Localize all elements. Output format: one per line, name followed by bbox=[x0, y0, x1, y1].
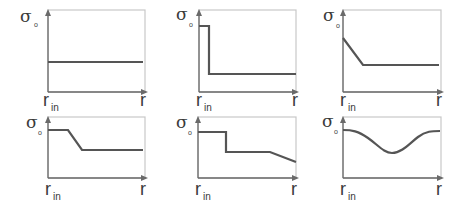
x-start-sub: in bbox=[348, 102, 356, 113]
x-start-sub: in bbox=[204, 102, 212, 113]
plot-frame bbox=[199, 10, 296, 92]
x-start-label: r bbox=[196, 90, 202, 110]
panel-3: σ o r in r bbox=[323, 5, 444, 113]
x-start-sub: in bbox=[348, 191, 356, 202]
plot-frame bbox=[343, 10, 441, 92]
plot-frame bbox=[343, 117, 441, 178]
y-label: σ bbox=[20, 6, 32, 26]
stress-curve bbox=[343, 38, 439, 65]
y-label: σ bbox=[176, 4, 188, 24]
x-end-label: r bbox=[140, 90, 146, 110]
y-label-sub: o bbox=[334, 128, 338, 135]
x-end-label: r bbox=[140, 179, 146, 199]
y-label-sub: o bbox=[38, 129, 42, 136]
x-end-label: r bbox=[436, 90, 442, 110]
panel-2: σ o r in r bbox=[176, 4, 299, 113]
panel-1: σ o r in r bbox=[20, 6, 148, 113]
y-label: σ bbox=[176, 112, 188, 132]
x-start-label: r bbox=[340, 90, 346, 110]
stress-profile-figure: σ o r in r σ o r in r σ o r in r bbox=[0, 0, 464, 210]
panel-4: σ o r in r bbox=[26, 112, 148, 202]
stress-curve bbox=[199, 26, 296, 74]
x-end-label: r bbox=[291, 179, 297, 199]
stress-curve bbox=[198, 132, 296, 162]
y-label-sub: o bbox=[336, 22, 340, 29]
panel-6: σ o r in r bbox=[322, 111, 444, 202]
x-start-label: r bbox=[340, 179, 346, 199]
y-label: σ bbox=[323, 5, 335, 25]
plot-frame bbox=[198, 117, 296, 178]
plot-frame bbox=[48, 117, 145, 178]
panel-5: σ o r in r bbox=[176, 112, 299, 202]
x-end-label: r bbox=[292, 90, 298, 110]
y-label-sub: o bbox=[34, 21, 38, 28]
x-start-sub: in bbox=[51, 102, 59, 113]
x-start-label: r bbox=[43, 90, 49, 110]
plot-frame bbox=[48, 10, 145, 92]
stress-curve bbox=[343, 130, 440, 153]
y-label-sub: o bbox=[188, 129, 192, 136]
x-end-label: r bbox=[436, 179, 442, 199]
y-label: σ bbox=[26, 112, 38, 132]
y-label: σ bbox=[322, 111, 334, 131]
x-start-sub: in bbox=[53, 191, 61, 202]
y-label-sub: o bbox=[189, 21, 193, 28]
stress-curve bbox=[48, 130, 143, 150]
x-start-label: r bbox=[195, 179, 201, 199]
x-start-sub: in bbox=[203, 191, 211, 202]
x-start-label: r bbox=[45, 179, 51, 199]
